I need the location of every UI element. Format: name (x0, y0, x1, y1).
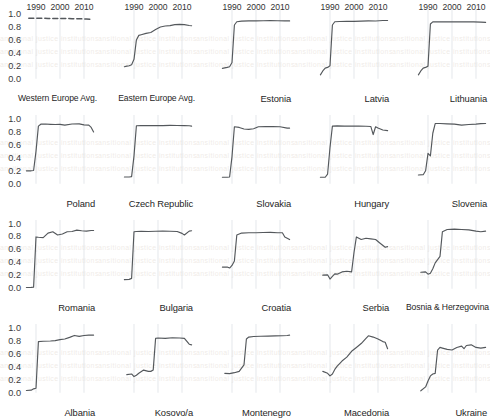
y-tick-label: 0.2 (1, 270, 21, 280)
panel-title: Latvia (365, 93, 389, 104)
y-tick-label: 0.0 (1, 179, 21, 189)
panel-title: Serbia (363, 302, 390, 313)
panel-plot (392, 314, 490, 419)
panel-title: Albania (64, 407, 95, 418)
panel-plot (98, 314, 196, 419)
x-tick-label: 2000 (148, 2, 167, 12)
y-tick-label: 1.0 (1, 9, 21, 19)
panel-eastern-europe-avg: ansitional justice institutions democrat… (98, 0, 196, 105)
panel-title: Kosovo/a (155, 407, 193, 418)
panel-plot (196, 210, 294, 315)
panel-romania: ansitional justice institutions democrat… (0, 210, 98, 315)
panel-macedonia: ansitional justice institutions democrat… (294, 314, 392, 419)
y-tick-label: 0.4 (1, 257, 21, 267)
panel-title: Ukraine (455, 407, 487, 418)
panel-title: Bulgaria (159, 302, 193, 313)
panel-plot (98, 105, 196, 210)
panel-title: Macedonia (344, 407, 389, 418)
x-tick-label: 1990 (320, 2, 339, 12)
panel-title: Romania (58, 302, 95, 313)
x-tick-label: 1990 (26, 2, 45, 12)
y-tick-label: 0.6 (1, 349, 21, 359)
x-tick-label: 2010 (270, 2, 289, 12)
panel-hungary: ansitional justice institutions democrat… (294, 105, 392, 210)
y-tick-label: 0.6 (1, 35, 21, 45)
panel-albania: ansitional justice institutions democrat… (0, 314, 98, 419)
x-tick-label: 1990 (418, 2, 437, 12)
y-tick-label: 0.2 (1, 166, 21, 176)
panel-title: Estonia (260, 93, 291, 104)
x-tick-label: 2010 (368, 2, 387, 12)
y-tick-label: 0.8 (1, 231, 21, 241)
x-tick-labels: 199020002010 (392, 2, 490, 14)
x-tick-label: 1990 (222, 2, 241, 12)
panel-plot (294, 0, 392, 105)
panel-slovenia: ansitional justice institutions democrat… (392, 105, 490, 210)
panel-croatia: ansitional justice institutions democrat… (196, 210, 294, 315)
y-tick-label: 0.2 (1, 61, 21, 71)
y-tick-label: 0.6 (1, 244, 21, 254)
y-tick-label: 0.8 (1, 22, 21, 32)
panel-serbia: ansitional justice institutions democrat… (294, 210, 392, 315)
panel-title: Western Europe Avg. (18, 93, 97, 104)
panel-title: Hungary (354, 198, 389, 209)
panel-title: Slovakia (256, 198, 291, 209)
panel-slovakia: ansitional justice institutions democrat… (196, 105, 294, 210)
panel-montenegro: ansitional justice institutions democrat… (196, 314, 294, 419)
x-tick-label: 1990 (124, 2, 143, 12)
panel-title: Eastern Europe Avg. (118, 93, 195, 104)
panel-title: Slovenia (452, 198, 487, 209)
y-tick-label: 1.0 (1, 219, 21, 229)
x-tick-labels: 199020002010 (98, 2, 196, 14)
y-tick-label: 1.0 (1, 323, 21, 333)
panel-latvia: ansitional justice institutions democrat… (294, 0, 392, 105)
panel-ukraine: ansitional justice institutions democrat… (392, 314, 490, 419)
panel-title: Czech Republic (129, 198, 193, 209)
y-tick-label: 0.8 (1, 336, 21, 346)
panel-title: Montenegro (242, 407, 291, 418)
x-tick-label: 2000 (246, 2, 265, 12)
panel-plot (196, 105, 294, 210)
panel-plot (196, 314, 294, 419)
panel-bosnia-herzegovina: ansitional justice institutions democrat… (392, 210, 490, 315)
panel-title: Bosnia & Herzegovina (406, 302, 489, 313)
panel-title: Poland (66, 198, 95, 209)
y-tick-label: 0.2 (1, 375, 21, 385)
panel-title: Croatia (261, 302, 291, 313)
panel-plot (196, 0, 294, 105)
y-tick-label: 0.0 (1, 74, 21, 84)
x-tick-label: 2010 (466, 2, 485, 12)
x-tick-label: 2000 (344, 2, 363, 12)
y-tick-label: 0.0 (1, 283, 21, 293)
panel-plot (98, 210, 196, 315)
y-tick-label: 1.0 (1, 114, 21, 124)
panel-plot (294, 105, 392, 210)
panel-plot (392, 105, 490, 210)
panel-lithuania: ansitional justice institutions democrat… (392, 0, 490, 105)
panel-western-europe-avg: ansitional justice institutions democrat… (0, 0, 98, 105)
panel-czech-republic: ansitional justice institutions democrat… (98, 105, 196, 210)
panel-plot (392, 210, 490, 315)
x-tick-label: 2010 (172, 2, 191, 12)
panel-title: Lithuania (450, 93, 487, 104)
panel-kosovo-a: ansitional justice institutions democrat… (98, 314, 196, 419)
y-tick-label: 0.4 (1, 153, 21, 163)
panel-poland: ansitional justice institutions democrat… (0, 105, 98, 210)
x-tick-label: 2010 (74, 2, 93, 12)
panel-plot (98, 0, 196, 105)
x-tick-label: 2000 (442, 2, 461, 12)
x-tick-labels: 199020002010 (294, 2, 392, 14)
panel-estonia: ansitional justice institutions democrat… (196, 0, 294, 105)
x-tick-labels: 199020002010 (196, 2, 294, 14)
y-tick-label: 0.0 (1, 388, 21, 398)
y-tick-label: 0.4 (1, 362, 21, 372)
panel-grid: ansitional justice institutions democrat… (0, 0, 490, 419)
y-tick-label: 0.8 (1, 127, 21, 137)
x-tick-label: 2000 (50, 2, 69, 12)
y-tick-label: 0.6 (1, 140, 21, 150)
panel-plot (294, 314, 392, 419)
panel-plot (392, 0, 490, 105)
panel-plot (294, 210, 392, 315)
panel-bulgaria: ansitional justice institutions democrat… (98, 210, 196, 315)
y-tick-label: 0.4 (1, 48, 21, 58)
